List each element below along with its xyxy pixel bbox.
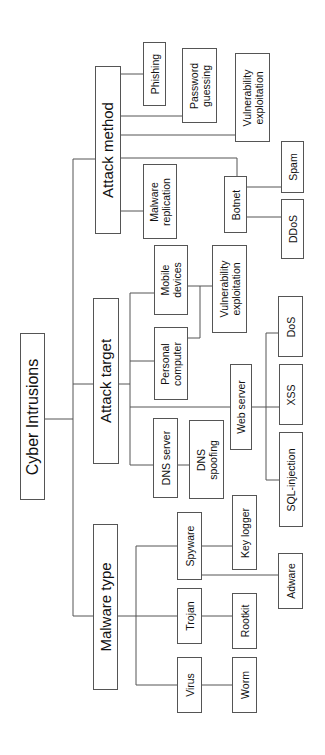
node-dos: DoS (278, 296, 303, 357)
node-virus: Virus (177, 657, 202, 713)
node-label: Key logger (238, 507, 250, 557)
node-label: Attack target (97, 339, 114, 423)
node-spyware: Spyware (177, 512, 202, 580)
category-malware-type: Malware type (93, 524, 118, 690)
node-label: Vulnerability exploitation (240, 69, 264, 126)
node-trojan: Trojan (177, 588, 202, 644)
node-label: XSS (285, 384, 297, 405)
root-node-cyber-intrusions: Cyber Intrusions (20, 333, 45, 500)
node-label: Rootkit (238, 605, 250, 638)
node-label: Virus (183, 673, 195, 697)
node-ddos: DDoS (281, 199, 304, 259)
node-malware-replication: Malware replication (143, 164, 177, 239)
node-label: DNS server (159, 431, 171, 485)
node-method-vulnerability-exploitation: Vulnerability exploitation (235, 53, 270, 142)
node-label: Spam (286, 153, 298, 180)
node-label: DNS spoofing (194, 440, 218, 480)
node-sql-injection: SQL-injection (279, 432, 303, 527)
node-label: SQL-injection (285, 448, 297, 511)
node-label: Attack method (99, 102, 116, 198)
node-key-logger: Key logger (232, 495, 257, 570)
category-attack-method: Attack method (95, 66, 121, 234)
node-label: Password guessing (187, 62, 211, 108)
node-dns-spoofing: DNS spoofing (189, 420, 224, 499)
node-label: Malware replication (148, 178, 172, 226)
node-label: Trojan (183, 601, 195, 630)
node-web-server: Web server (230, 364, 252, 450)
node-label: Vulnerability exploitation (217, 261, 241, 318)
node-spam: Spam (281, 141, 304, 193)
node-label: DDoS (286, 215, 298, 243)
node-mobile-devices: Mobile devices (154, 245, 188, 315)
node-xss: XSS (279, 364, 303, 425)
node-label: Botnet (229, 189, 241, 219)
node-label: Cyber Intrusions (23, 358, 41, 475)
node-label: Malware type (97, 562, 114, 651)
node-rootkit: Rootkit (232, 593, 257, 649)
node-label: Worm (238, 671, 250, 699)
node-target-vulnerability-exploitation: Vulnerability exploitation (212, 245, 247, 333)
category-attack-target: Attack target (93, 298, 119, 464)
node-dns-server: DNS server (153, 418, 178, 498)
node-label: Web server (235, 380, 247, 434)
node-label: Personal computer (159, 342, 183, 386)
node-label: Adware (284, 563, 296, 599)
node-phishing: Phishing (143, 42, 166, 106)
node-label: Phishing (148, 54, 160, 94)
node-worm: Worm (232, 657, 257, 713)
node-personal-computer: Personal computer (154, 327, 188, 400)
node-password-guessing: Password guessing (182, 48, 217, 123)
node-label: DoS (284, 316, 296, 336)
node-label: Mobile devices (159, 262, 183, 298)
node-adware: Adware (278, 553, 303, 609)
node-botnet: Botnet (224, 176, 247, 233)
node-label: Spyware (183, 526, 195, 567)
